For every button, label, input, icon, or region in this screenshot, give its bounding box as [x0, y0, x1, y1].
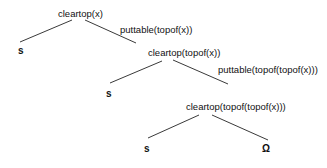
leaf-s-3: s — [144, 143, 150, 154]
leaf-s-1: s — [18, 45, 24, 56]
edge-label-puttable-topof-x: puttable(topof(x)) — [120, 24, 192, 35]
edge-n2-left — [110, 61, 162, 83]
edge-label-puttable-topof-topof-x: puttable(topof(topof(x))) — [218, 64, 318, 75]
leaf-omega: Ω — [262, 143, 270, 154]
leaf-s-2: s — [106, 88, 112, 99]
node-cleartop-x: cleartop(x) — [58, 8, 103, 19]
proof-tree-diagram: cleartop(x) s puttable(topof(x)) clearto… — [0, 0, 327, 168]
edge-n3-left — [148, 115, 199, 138]
edge-n3-right — [212, 115, 268, 140]
node-cleartop-topof-x: cleartop(topof(x)) — [148, 47, 220, 58]
edge-n1-left — [20, 20, 72, 42]
node-cleartop-topof-topof-x: cleartop(topof(topof(x))) — [186, 101, 286, 112]
